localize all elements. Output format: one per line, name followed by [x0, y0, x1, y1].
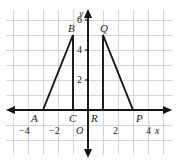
x-tick-label-neg4: −4 — [19, 126, 30, 136]
vertex-label-p: P — [136, 113, 143, 124]
y-axis-label: y — [79, 9, 83, 19]
x-tick-label-4: 4 — [146, 126, 151, 136]
vertex-label-r: R — [91, 113, 98, 124]
vertex-label-q: Q — [100, 23, 108, 34]
y-axis-arrow-down — [84, 149, 92, 158]
x-axis-arrow-left — [6, 106, 15, 114]
coordinate-plane-svg — [0, 0, 178, 162]
axes — [12, 13, 166, 154]
origin-label: O — [76, 126, 83, 136]
vertex-label-a: A — [31, 113, 38, 124]
figure-canvas: A B C R Q P 2 4 6 −4 −2 2 4 O x y — [0, 0, 178, 162]
y-tick-label-4: 4 — [77, 45, 82, 55]
x-axis-arrow-right — [163, 106, 172, 114]
x-axis-label: x — [155, 126, 159, 136]
y-tick-label-2: 2 — [77, 75, 82, 85]
x-tick-label-2: 2 — [113, 126, 118, 136]
vertex-label-b: B — [68, 23, 75, 34]
y-axis-arrow-up — [84, 9, 92, 18]
vertex-label-c: C — [69, 113, 76, 124]
x-tick-label-neg2: −2 — [49, 126, 60, 136]
